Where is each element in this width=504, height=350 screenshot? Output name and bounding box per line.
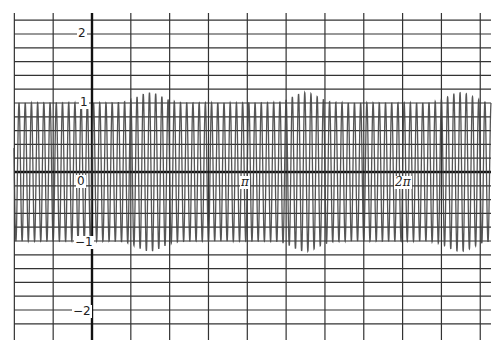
y-tick-label-1: 1	[79, 96, 89, 109]
x-tick-label-pi: π	[240, 176, 250, 189]
x-tick-label-2pi: 2π	[394, 176, 412, 189]
x-tick-label-0: 0	[76, 175, 86, 188]
y-tick-label-2: 2	[77, 27, 87, 40]
y-tick-label-neg2: −2	[72, 305, 92, 318]
y-tick-label-neg1: −1	[74, 236, 94, 249]
